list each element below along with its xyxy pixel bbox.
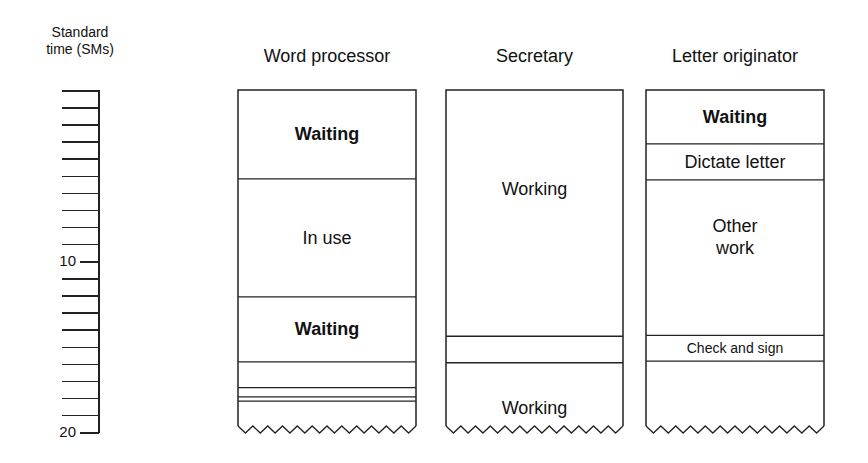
axis-tick (62, 415, 99, 417)
column-letter-originator: WaitingDictate letterOtherworkCheck and … (646, 90, 824, 435)
axis-tick (62, 312, 99, 314)
axis-tick-label: 20 (36, 423, 76, 440)
column-secretary: WorkingWorking (446, 90, 623, 435)
axis-tick (62, 381, 99, 383)
segment-label: Dictate letter (646, 151, 824, 173)
axis-tick (62, 210, 99, 212)
segment-label: Waiting (238, 318, 416, 340)
axis-tick-label: 10 (36, 252, 76, 269)
segment-label: Working (446, 178, 623, 200)
axis-tick (62, 398, 99, 400)
axis-tick (62, 227, 99, 229)
axis-tick (62, 193, 99, 195)
axis-title-line1: Standard (30, 24, 130, 41)
axis-tick (62, 244, 99, 246)
axis-title: Standard time (SMs) (30, 24, 130, 58)
column-header-letter-originator: Letter originator (646, 46, 824, 67)
axis-tick (62, 364, 99, 366)
segment-label: Otherwork (646, 215, 824, 259)
column-header-secretary: Secretary (446, 46, 623, 67)
axis-tick (62, 124, 99, 126)
zigzag-break-icon (446, 426, 623, 433)
axis-tick (62, 90, 99, 92)
axis-tick (62, 278, 99, 280)
segment-label: Waiting (238, 123, 416, 145)
zigzag-break-icon (238, 426, 416, 433)
column-frame (446, 90, 623, 440)
column-word-processor: WaitingIn useWaiting (238, 90, 416, 435)
segment-label: Waiting (646, 106, 824, 128)
axis-tick (62, 176, 99, 178)
column-frame (646, 90, 824, 440)
axis-title-line2: time (SMs) (30, 41, 130, 58)
axis-tick (62, 295, 99, 297)
axis-tick (62, 107, 99, 109)
axis-tick (80, 261, 99, 263)
zigzag-break-icon (646, 426, 824, 433)
segment-label: In use (238, 227, 416, 249)
axis-tick (62, 347, 99, 349)
column-header-word-processor: Word processor (238, 46, 416, 67)
axis-tick (62, 141, 99, 143)
axis-tick (62, 329, 99, 331)
segment-label: Check and sign (646, 340, 824, 357)
axis-tick (62, 158, 99, 160)
axis-tick (80, 432, 99, 434)
segment-label: Working (446, 397, 623, 419)
